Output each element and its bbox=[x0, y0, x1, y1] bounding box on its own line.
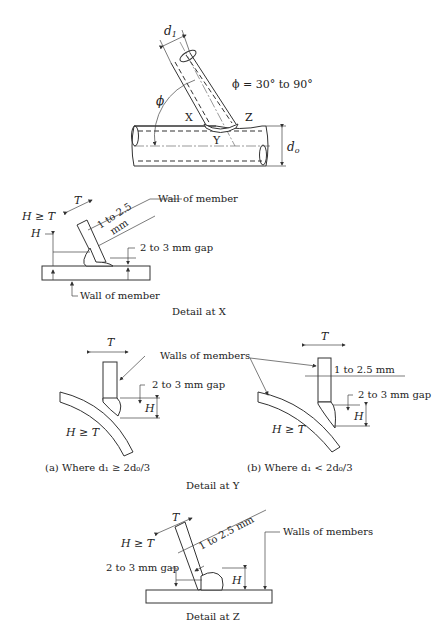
overview-drawing: d1 ϕ ϕ = 30° to 90° X Y Z do bbox=[132, 24, 313, 166]
d1-label: d1 bbox=[164, 24, 177, 39]
detail-y-a-t-label: T bbox=[107, 336, 116, 349]
detail-x: T H ≥ T H 1 to 2.5 mm Wall of member 2 t… bbox=[21, 193, 238, 317]
detail-x-gap-label: 2 to 3 mm gap bbox=[140, 242, 213, 253]
detail-y-a-h-label: H bbox=[144, 402, 155, 415]
welded-tube-joint-diagram: d1 ϕ ϕ = 30° to 90° X Y Z do T H ≥ T H bbox=[0, 0, 445, 632]
detail-x-caption: Detail at X bbox=[172, 306, 227, 317]
point-x-label: X bbox=[185, 111, 193, 124]
detail-y-a-caption: (a) Where d₁ ≥ 2d₀/3 bbox=[45, 462, 150, 473]
detail-y-b-gap-label: 2 to 3 mm gap bbox=[358, 389, 431, 400]
detail-y-b-t-label: T bbox=[321, 330, 330, 343]
detail-x-h-ge-t: H ≥ T bbox=[21, 210, 57, 223]
detail-y-b-h-ge-t: H ≥ T bbox=[271, 423, 307, 436]
detail-y-b-clearance-label: 1 to 2.5 mm bbox=[334, 364, 395, 375]
detail-z-gap-label: 2 to 3 mm gap bbox=[106, 562, 179, 573]
point-y-label: Y bbox=[212, 134, 221, 147]
detail-y-walls-label: Walls of members bbox=[160, 350, 250, 361]
detail-x-wall-bottom-label: Wall of member bbox=[80, 290, 160, 301]
phi-label: ϕ bbox=[156, 94, 164, 108]
detail-z-h-label: H bbox=[231, 574, 242, 587]
detail-y-a-gap-label: 2 to 3 mm gap bbox=[152, 379, 225, 390]
detail-z: T H ≥ T 1 to 2.5 mm Walls of members 2 t… bbox=[106, 510, 373, 622]
detail-z-caption: Detail at Z bbox=[186, 611, 240, 622]
detail-y-b-caption: (b) Where d₁ < 2d₀/3 bbox=[247, 462, 353, 473]
detail-y-b: T 1 to 2.5 mm 2 to 3 mm gap H H ≥ T (b) … bbox=[247, 330, 431, 473]
detail-z-walls-label: Walls of members bbox=[283, 526, 373, 537]
detail-z-clearance-label: 1 to 2.5 mm bbox=[197, 513, 256, 552]
detail-y-caption: Detail at Y bbox=[186, 480, 240, 491]
detail-y-b-h-label: H bbox=[353, 410, 364, 423]
detail-x-h-label: H bbox=[30, 227, 41, 240]
detail-y-a-h-ge-t: H ≥ T bbox=[65, 426, 101, 439]
detail-x-wall-top-label: Wall of member bbox=[158, 193, 238, 204]
d0-label: do bbox=[287, 140, 300, 155]
phi-range-label: ϕ = 30° to 90° bbox=[232, 78, 313, 91]
detail-z-h-ge-t: H ≥ T bbox=[120, 537, 156, 550]
detail-z-t-label: T bbox=[172, 511, 181, 524]
point-z-label: Z bbox=[245, 111, 253, 124]
